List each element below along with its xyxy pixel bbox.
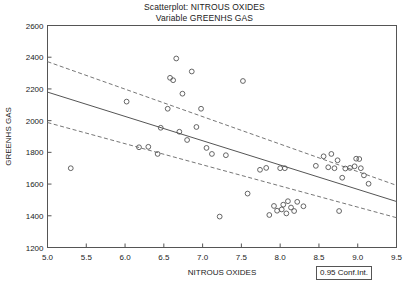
data-point [292, 209, 297, 214]
data-point [358, 166, 363, 171]
data-point [245, 191, 250, 196]
x-axis-tick-label: 5.0 [42, 253, 54, 262]
data-point [185, 138, 190, 143]
x-axis-tick-label: 5.5 [81, 253, 93, 262]
data-point [337, 209, 342, 214]
data-point [352, 164, 357, 169]
data-point [295, 199, 300, 204]
y-axis-tick-label: 1200 [26, 244, 44, 253]
legend-label: 0.95 Conf.Int. [320, 268, 368, 277]
data-point [210, 152, 215, 157]
data-point [321, 154, 326, 159]
data-point [223, 153, 228, 158]
plot-canvas: 120014001600180020002200240026005.05.56.… [0, 0, 409, 290]
data-point [278, 166, 283, 171]
data-point [275, 208, 280, 213]
y-axis-tick-label: 1800 [26, 148, 44, 157]
data-point [301, 204, 306, 209]
y-axis-tick-label: 1400 [26, 212, 44, 221]
x-axis-tick-label: 8.5 [313, 253, 325, 262]
data-point [241, 79, 246, 84]
data-point [340, 175, 345, 180]
data-point [199, 106, 204, 111]
confidence-interval-legend: 0.95 Conf.Int. [316, 266, 372, 280]
data-point [313, 163, 318, 168]
data-point [258, 167, 263, 172]
y-axis-tick-label: 2600 [26, 22, 44, 31]
data-point [279, 207, 284, 212]
data-point [362, 173, 367, 178]
data-point [357, 157, 362, 162]
data-point [194, 125, 199, 130]
data-point [174, 56, 179, 61]
x-axis-tick-label: 8.0 [275, 253, 287, 262]
data-point [329, 152, 334, 157]
data-point [281, 202, 286, 207]
y-axis-tick-label: 2200 [26, 85, 44, 94]
x-axis-tick-label: 9.0 [352, 253, 364, 262]
data-point [326, 165, 331, 170]
x-axis-tick-label: 7.0 [197, 253, 209, 262]
data-point-group [68, 56, 371, 219]
x-axis-tick-label: 7.5 [236, 253, 248, 262]
y-axis-tick-label: 2000 [26, 117, 44, 126]
data-point [124, 99, 129, 104]
y-axis-title: GREENHS GAS [4, 107, 13, 166]
data-point [204, 146, 209, 151]
x-axis-tick-label: 9.5 [391, 253, 403, 262]
data-point [284, 211, 289, 216]
data-point [146, 144, 151, 149]
data-point [267, 213, 272, 218]
data-point [366, 181, 371, 186]
data-point [286, 199, 291, 204]
x-axis-tick-label: 6.5 [158, 253, 170, 262]
data-point [272, 204, 277, 209]
data-point [68, 166, 73, 171]
y-axis-tick-label: 1600 [26, 180, 44, 189]
scatterplot-figure: Scatterplot: NITROUS OXIDES Variable GRE… [0, 0, 409, 290]
data-point [165, 106, 170, 111]
x-axis-tick-label: 6.0 [119, 253, 131, 262]
data-point [332, 166, 337, 171]
x-axis-title: NITROUS OXIDES [188, 268, 256, 277]
regression-line [48, 92, 397, 201]
data-point [264, 165, 269, 170]
data-point [189, 69, 194, 74]
data-point [180, 91, 185, 96]
y-axis-tick-label: 2400 [26, 53, 44, 62]
data-point [217, 214, 222, 219]
data-point [335, 158, 340, 163]
